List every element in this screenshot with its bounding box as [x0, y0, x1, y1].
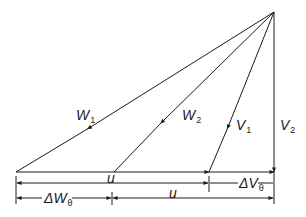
w2-label: W2 [182, 108, 201, 122]
velocity-triangle-diagram: W1 W2 V1 V2 u ΔVθ ΔWθ u [0, 0, 306, 217]
v1-vector [209, 12, 274, 172]
v2-label: V2 [280, 118, 295, 132]
u-top-label: u [107, 171, 115, 185]
v1-label: V1 [236, 118, 251, 132]
u-bottom-label: u [169, 186, 177, 200]
delta-w-theta-label: ΔWθ [44, 191, 73, 205]
delta-v-theta-label: ΔVθ [239, 176, 264, 190]
w2-vector [114, 12, 274, 172]
w1-vector [16, 12, 274, 172]
w1-label: W1 [76, 108, 95, 122]
